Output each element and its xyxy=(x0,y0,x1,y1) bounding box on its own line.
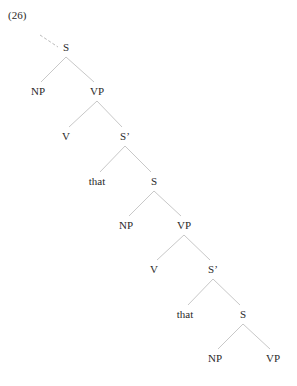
tree-node-sbar2: S’ xyxy=(208,263,218,275)
tree-edge-s1-vp1 xyxy=(66,57,94,82)
tree-edge-s3-vp3 xyxy=(243,324,270,349)
tree-node-v2: V xyxy=(150,263,158,275)
tree-node-that2: that xyxy=(177,308,194,320)
tree-edge-vp1-sbar1 xyxy=(97,101,122,127)
tree-node-that1: that xyxy=(89,175,106,187)
tree-node-sbar1: S’ xyxy=(120,130,130,142)
tree-node-np2: NP xyxy=(119,219,133,231)
root-incoming-dashed-edge xyxy=(40,35,58,47)
tree-node-vp2: VP xyxy=(177,219,191,231)
tree-edge-s1-np1 xyxy=(41,57,66,82)
tree-node-np1: NP xyxy=(31,85,45,97)
tree-edge-s2-vp2 xyxy=(154,191,181,216)
tree-edge-vp1-v1 xyxy=(69,101,97,127)
tree-node-s1: S xyxy=(63,41,69,53)
tree-edge-vp2-v2 xyxy=(157,235,184,260)
tree-node-s2: S xyxy=(151,175,157,187)
tree-edge-sbar1-that1 xyxy=(100,146,125,172)
tree-node-vp3: VP xyxy=(266,352,280,364)
tree-node-s3: S xyxy=(240,308,246,320)
tree-node-v1: V xyxy=(62,130,70,142)
tree-node-vp1: VP xyxy=(90,85,104,97)
tree-edge-s2-np2 xyxy=(129,191,154,216)
tree-edge-s3-np3 xyxy=(218,324,243,349)
tree-edge-sbar2-s3 xyxy=(213,279,240,305)
syntax-tree: SNPVPVS’thatSNPVPVS’thatSNPVP xyxy=(0,0,297,386)
tree-edge-sbar2-that2 xyxy=(188,279,213,305)
tree-edge-vp2-sbar2 xyxy=(184,235,210,260)
tree-edge-sbar1-s2 xyxy=(125,146,151,172)
tree-node-np3: NP xyxy=(208,352,222,364)
